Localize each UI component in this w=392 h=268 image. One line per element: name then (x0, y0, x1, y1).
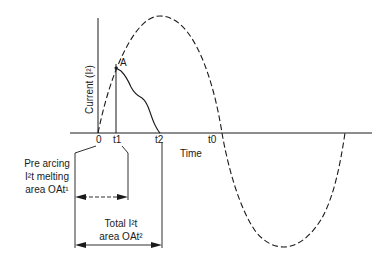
pre-arcing-annotation: Pre arcing I²t melting area OAt¹ (14, 158, 80, 196)
tick-t1-label: t1 (113, 134, 121, 146)
tick-origin-label: 0 (96, 134, 102, 146)
x-axis-label: Time (180, 148, 202, 160)
pre-arcing-line-3: area OAt¹ (14, 184, 80, 196)
tick-t2-label: t2 (155, 134, 163, 146)
tick-t0-label: t0 (208, 134, 216, 146)
arrowhead-right-icon (117, 194, 128, 200)
point-a-marker (115, 67, 118, 70)
let-through-current-curve (116, 68, 160, 133)
point-a-label: A (120, 57, 127, 69)
total-annotation: Total I²t area OAt² (88, 218, 154, 243)
pre-arcing-right-leader (122, 146, 128, 200)
pre-arcing-line-2: I²t melting (14, 171, 80, 183)
diagram-canvas (0, 0, 392, 268)
pre-arcing-line-1: Pre arcing (14, 158, 80, 170)
total-line-2: area OAt² (88, 231, 154, 243)
prospective-current-curve (98, 16, 345, 247)
total-line-1: Total I²t (88, 218, 154, 230)
y-axis-label: Current (I²) (84, 65, 95, 114)
arrowhead-left-icon (75, 242, 86, 248)
